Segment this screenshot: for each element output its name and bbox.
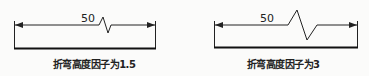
- dimension-value: 50: [81, 12, 95, 25]
- jog-zigzag: [99, 17, 111, 33]
- jog-zigzag: [288, 10, 317, 40]
- figure-factor-3: 50: [214, 10, 358, 48]
- dimension-value: 50: [260, 12, 274, 25]
- caption-factor-3: 折弯高度因子为3: [247, 56, 320, 71]
- figure-factor-1-5: 50: [14, 12, 156, 49]
- caption-factor-1-5: 折弯高度因子为1.5: [53, 56, 136, 71]
